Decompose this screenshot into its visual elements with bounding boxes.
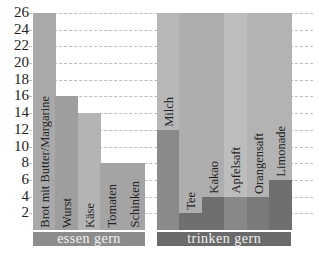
bar-label: Apfelsaft <box>229 147 244 194</box>
y-tick-label: 16 <box>0 88 29 103</box>
bar-label: Tee <box>184 192 199 210</box>
y-tick-label: 24 <box>0 22 29 37</box>
bar-label: Orangensaft <box>252 133 267 194</box>
y-tick-label: 20 <box>0 55 29 70</box>
group-label-essen: essen gern <box>33 232 145 246</box>
bar-2 <box>179 213 202 230</box>
bar-label: Milch <box>162 97 177 127</box>
group-label-trinken: trinken gern <box>157 232 291 246</box>
y-tick-label: 14 <box>0 105 29 120</box>
bar-chart: 2468101214161820222426Brot mit Butter/Ma… <box>0 0 319 258</box>
bar-1 <box>157 130 180 230</box>
bar-5 <box>247 197 270 230</box>
bar-3 <box>202 197 225 230</box>
y-tick-label: 18 <box>0 72 29 87</box>
y-tick-label: 6 <box>0 172 29 187</box>
bar-label: Limonade <box>274 126 289 177</box>
y-tick-label: 8 <box>0 155 29 170</box>
y-tick-label: 4 <box>0 189 29 204</box>
y-tick-label: 10 <box>0 139 29 154</box>
y-tick-label: 22 <box>0 38 29 53</box>
bar-label: Schinken <box>128 181 143 228</box>
bar-4 <box>224 197 247 230</box>
bar-label: Kakao <box>207 161 222 194</box>
y-tick-label: 2 <box>0 205 29 220</box>
bar-label: Brot mit Butter/Margarine <box>38 96 53 228</box>
y-tick-label: 12 <box>0 122 29 137</box>
bar-label: Wurst <box>60 198 75 228</box>
bar-label: Käse <box>83 203 98 228</box>
y-tick-label: 26 <box>0 5 29 20</box>
bar-6 <box>269 180 292 230</box>
bar-label: Tomaten <box>105 184 120 228</box>
